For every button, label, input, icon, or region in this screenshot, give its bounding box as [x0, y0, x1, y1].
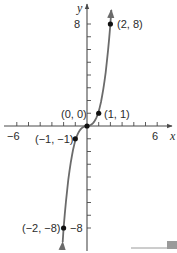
y-min-label: −8 [70, 222, 83, 234]
x-max-label: 6 [152, 130, 158, 142]
x-axis-label: x [169, 129, 176, 143]
x-min-label: −6 [7, 130, 20, 142]
y-max-label: 8 [74, 18, 80, 30]
point-label-m2-m8: (−2, −8) [22, 222, 61, 234]
point-2-8 [108, 21, 113, 26]
point-m2-m8 [61, 225, 66, 230]
cubic-function-graph: y x 8 −8 −6 6 (2, 8) (1, 1) (0, 0) (−1, … [0, 0, 177, 253]
point-label-2-8: (2, 8) [117, 18, 143, 30]
point-label-m1-m1: (−1, −1) [35, 133, 74, 145]
point-0-0 [84, 123, 89, 128]
point-label-1-1: (1, 1) [104, 108, 130, 120]
footer-block [167, 241, 177, 249]
point-1-1 [96, 111, 101, 116]
y-axis-label: y [76, 1, 83, 15]
point-label-0-0: (0, 0) [61, 108, 87, 120]
